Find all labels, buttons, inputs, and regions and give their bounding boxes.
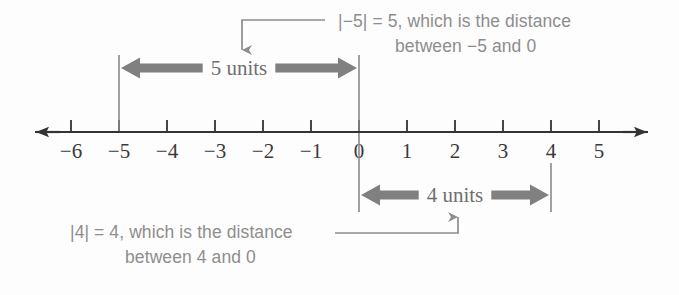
measure-arrow-right-icon [275, 58, 357, 79]
tick-label: −2 [252, 139, 274, 163]
tick-label: 5 [594, 139, 605, 163]
axis-ticks [71, 120, 599, 132]
leader-line-bottom [335, 217, 458, 233]
tick-label: 2 [450, 139, 461, 163]
annotation-bottom-line2: between 4 and 0 [125, 247, 256, 267]
annotation-top-line1: |−5| = 5, which is the distance [338, 11, 571, 31]
tick-label: −3 [204, 139, 226, 163]
measure-arrow-left-icon [121, 58, 203, 79]
tick-label: 4 [546, 139, 557, 163]
leader-line-top [242, 20, 325, 50]
diagram-canvas: −6−5−4−3−2−1012345 5 units 4 units |−5| … [0, 0, 679, 295]
measure-arrow-right-icon-bottom [491, 185, 549, 206]
number-line-figure: −6−5−4−3−2−1012345 5 units 4 units |−5| … [0, 0, 679, 295]
tick-label: 3 [498, 139, 509, 163]
tick-label: −4 [156, 139, 179, 163]
annotation-top-line2: between −5 and 0 [395, 36, 536, 56]
annotation-bottom: |4| = 4, which is the distance between 4… [70, 217, 458, 267]
annotation-bottom-line1: |4| = 4, which is the distance [70, 222, 293, 242]
measure-label-4-units: 4 units [427, 183, 484, 207]
tick-label: 1 [402, 139, 413, 163]
measure-arrow-left-icon-bottom [361, 185, 419, 206]
axis-tick-labels: −6−5−4−3−2−1012345 [60, 139, 604, 163]
annotation-top: |−5| = 5, which is the distance between … [242, 11, 571, 56]
measure-5-units: 5 units [119, 55, 359, 131]
measure-label-5-units: 5 units [211, 56, 268, 80]
tick-label: −1 [300, 139, 322, 163]
tick-label: −6 [60, 139, 82, 163]
tick-label: −5 [108, 139, 130, 163]
